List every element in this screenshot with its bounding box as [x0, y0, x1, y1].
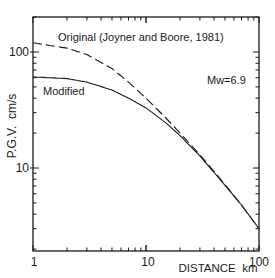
axis-ticks	[30, 17, 259, 251]
x-tick-label-10: 10	[141, 255, 155, 269]
modified-curve	[33, 77, 259, 229]
y-axis-label: P.G.V. cm/s	[5, 94, 19, 159]
annotation-original: Original (Joyner and Boore, 1981)	[58, 31, 224, 43]
x-tick-label-1: 1	[31, 255, 38, 269]
y-tick-label-100: 100	[9, 45, 29, 59]
pgv-distance-chart: 100 10 1 10 100 DISTANCE km P.G.V. cm/s …	[0, 0, 275, 278]
plot-frame	[33, 17, 259, 251]
x-axis-label: DISTANCE km	[178, 262, 257, 274]
y-tick-label-10: 10	[16, 161, 30, 175]
curves	[33, 43, 259, 229]
annotation-modified: Modified	[43, 85, 85, 97]
original-curve	[33, 43, 259, 229]
annotation-mw: Mw=6.9	[207, 74, 246, 86]
